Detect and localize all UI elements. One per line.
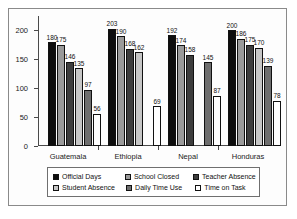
bar-slot: 175 [246, 16, 254, 146]
bar[interactable] [108, 29, 116, 146]
y-axis-tick-label: 150 [15, 55, 28, 64]
bar-slot: 175 [57, 16, 65, 146]
x-axis-tick [218, 146, 219, 150]
legend-swatch-icon [53, 185, 59, 191]
bar-group: 19217415814587 [158, 16, 218, 146]
legend-item[interactable]: School Closed [125, 173, 193, 180]
bar[interactable] [117, 36, 125, 146]
bar-slot: 190 [117, 16, 125, 146]
x-axis-category-label: Honduras [232, 152, 265, 161]
bar-slot: 135 [75, 16, 83, 146]
legend-item[interactable]: Student Absence [53, 184, 126, 191]
y-axis-tick-label: 100 [15, 84, 28, 93]
bar-group-bars: 19217415814587 [168, 16, 221, 146]
legend-item-label: Official Days [62, 173, 101, 180]
bar-slot: 97 [84, 16, 92, 146]
legend-row: Student AbsenceDaily Time UseTime on Tas… [53, 182, 255, 193]
x-axis-tick [158, 146, 159, 150]
legend-item[interactable]: Teacher Absence [193, 173, 255, 180]
legend-swatch-icon [126, 185, 132, 191]
bar[interactable] [48, 42, 56, 146]
legend-item[interactable]: Official Days [53, 173, 125, 180]
bar[interactable] [186, 55, 194, 146]
bar[interactable] [75, 68, 83, 146]
plot-area: 050100150200 1801751461359756Guatemala20… [38, 16, 278, 146]
bar[interactable] [84, 90, 92, 146]
bar[interactable] [66, 62, 74, 146]
x-axis-category-label: Nepal [178, 152, 198, 161]
bar-value-label: 192 [167, 28, 178, 35]
chart-legend: Official DaysSchool ClosedTeacher Absenc… [47, 167, 260, 197]
bar[interactable] [126, 49, 134, 146]
bar-slot: 145 [204, 16, 212, 146]
bar-group: 20319016816269 [98, 16, 158, 146]
bar-slot: 192 [168, 16, 176, 146]
legend-swatch-icon [193, 174, 199, 180]
bar[interactable] [168, 35, 176, 146]
x-axis-category-label: Ethiopia [114, 152, 141, 161]
bar-slot: 203 [108, 16, 116, 146]
bar[interactable] [135, 52, 143, 146]
bar-group: 20018617517013978 [218, 16, 278, 146]
bar-value-label: 162 [134, 45, 145, 52]
legend-item-label: Time on Task [204, 184, 245, 191]
bar-slot: 162 [135, 16, 143, 146]
bar-value-label: 135 [74, 61, 85, 68]
bar-slot: 168 [126, 16, 134, 146]
y-axis-tick-label: 200 [15, 26, 28, 35]
bar[interactable] [204, 62, 212, 146]
bar-group-bars: 1801751461359756 [48, 16, 101, 146]
legend-row: Official DaysSchool ClosedTeacher Absenc… [53, 171, 255, 182]
bar-value-label: 158 [185, 47, 196, 54]
bar-value-label: 139 [263, 58, 274, 65]
legend-swatch-icon [53, 174, 59, 180]
bar-slot: 78 [273, 16, 281, 146]
bar-slot: 170 [255, 16, 263, 146]
legend-item-label: Daily Time Use [135, 184, 182, 191]
bar-slot [195, 16, 203, 146]
bar[interactable] [246, 45, 254, 146]
bar-slot [144, 16, 152, 146]
bar-slot: 146 [66, 16, 74, 146]
bar-value-label: 97 [84, 82, 91, 89]
legend-swatch-icon [125, 174, 131, 180]
bar-slot: 174 [177, 16, 185, 146]
bar-group-bars: 20319016816269 [108, 16, 161, 146]
bar[interactable] [228, 30, 236, 146]
bar-chart-figure: 050100150200 1801751461359756Guatemala20… [0, 0, 297, 219]
bar-value-label: 190 [116, 29, 127, 36]
bar-group: 1801751461359756 [38, 16, 98, 146]
legend-item-label: Student Absence [62, 184, 115, 191]
bar-value-label: 78 [273, 93, 280, 100]
bar-slot: 158 [186, 16, 194, 146]
bar-slot: 139 [264, 16, 272, 146]
legend-item-label: School Closed [134, 173, 179, 180]
y-axis-tick-label: 50 [20, 113, 28, 122]
y-axis-tick: 0 [34, 146, 38, 147]
bar[interactable] [177, 45, 185, 146]
bar-value-label: 170 [254, 40, 265, 47]
bar-group-bars: 20018617517013978 [228, 16, 281, 146]
bar[interactable] [237, 39, 245, 146]
legend-item[interactable]: Time on Task [195, 184, 255, 191]
bar-value-label: 203 [107, 21, 118, 28]
x-axis-tick [98, 146, 99, 150]
legend-swatch-icon [195, 185, 201, 191]
legend-item-label: Teacher Absence [202, 173, 256, 180]
bar[interactable] [273, 101, 281, 146]
legend-item[interactable]: Daily Time Use [126, 184, 195, 191]
bar-value-label: 200 [227, 23, 238, 30]
bar-value-label: 175 [56, 37, 67, 44]
bar-value-label: 174 [176, 38, 187, 45]
bar[interactable] [264, 66, 272, 146]
x-axis-category-label: Guatemala [50, 152, 87, 161]
y-axis-tick-label: 0 [24, 142, 28, 151]
bar-value-label: 145 [203, 55, 214, 62]
